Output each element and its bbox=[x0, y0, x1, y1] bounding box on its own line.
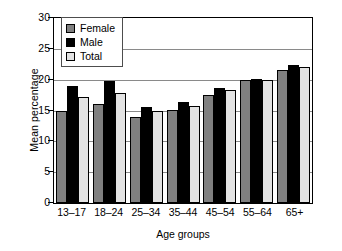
bar-total-65+ bbox=[299, 67, 310, 203]
y-tick-mark bbox=[48, 140, 53, 141]
bar-total-55-64 bbox=[262, 80, 273, 203]
legend-entry-total: Total bbox=[66, 49, 115, 63]
legend-label: Female bbox=[80, 23, 115, 34]
legend-swatch-icon bbox=[66, 52, 75, 61]
y-tick-mark bbox=[48, 17, 53, 18]
bar-male-45-54 bbox=[214, 88, 225, 203]
bar-female-45-54 bbox=[203, 95, 214, 203]
y-tick-mark bbox=[48, 171, 53, 172]
legend-entry-female: Female bbox=[66, 21, 115, 35]
x-tick-label: 45–54 bbox=[202, 206, 239, 218]
bar-total-18-24 bbox=[115, 93, 126, 203]
bar-group bbox=[238, 18, 275, 203]
x-tick-label: 65+ bbox=[276, 206, 313, 218]
x-tick-label: 13–17 bbox=[53, 206, 90, 218]
bar-male-18-24 bbox=[104, 81, 115, 203]
x-tick-label: 55–64 bbox=[239, 206, 276, 218]
bar-group bbox=[128, 18, 165, 203]
bar-male-13-17 bbox=[67, 86, 78, 203]
y-tick-label: 10 bbox=[24, 135, 50, 145]
x-tick-label: 18–24 bbox=[90, 206, 127, 218]
bar-female-35-44 bbox=[167, 110, 178, 203]
bar-male-55-64 bbox=[251, 79, 262, 203]
bar-group bbox=[165, 18, 202, 203]
y-tick-mark bbox=[48, 202, 53, 203]
y-tick-label: 0 bbox=[24, 197, 50, 207]
bar-female-18-24 bbox=[93, 104, 104, 203]
bar-group bbox=[275, 18, 312, 203]
y-tick-label: 25 bbox=[24, 43, 50, 53]
y-tick-label: 5 bbox=[24, 166, 50, 176]
bar-female-65+ bbox=[277, 70, 288, 203]
bar-total-25-34 bbox=[152, 111, 163, 204]
bar-total-13-17 bbox=[78, 97, 89, 203]
bar-group bbox=[201, 18, 238, 203]
bar-male-25-34 bbox=[141, 107, 152, 203]
bar-female-25-34 bbox=[130, 117, 141, 203]
y-tick-mark bbox=[48, 48, 53, 49]
y-tick-label: 15 bbox=[24, 105, 50, 115]
chart-legend: FemaleMaleTotal bbox=[61, 17, 123, 67]
x-axis-tick-labels: 13–1718–2425–3435–4445–5455–6465+ bbox=[53, 206, 313, 218]
legend-entry-male: Male bbox=[66, 35, 115, 49]
y-tick-mark bbox=[48, 110, 53, 111]
legend-swatch-icon bbox=[66, 24, 75, 33]
legend-swatch-icon bbox=[66, 38, 75, 47]
y-tick-label: 20 bbox=[24, 74, 50, 84]
bar-chart-figure: Mean percentage 051015202530 FemaleMaleT… bbox=[0, 0, 342, 251]
y-tick-label: 30 bbox=[24, 12, 50, 22]
y-tick-mark bbox=[48, 79, 53, 80]
x-axis-title: Age groups bbox=[53, 228, 313, 240]
legend-label: Male bbox=[80, 37, 103, 48]
bar-male-35-44 bbox=[178, 102, 189, 203]
bar-total-35-44 bbox=[189, 106, 200, 203]
y-axis-tick-labels: 051015202530 bbox=[24, 0, 50, 251]
bar-total-45-54 bbox=[225, 90, 236, 203]
bar-male-65+ bbox=[288, 65, 299, 203]
x-tick-label: 25–34 bbox=[127, 206, 164, 218]
legend-label: Total bbox=[80, 51, 102, 62]
x-tick-label: 35–44 bbox=[164, 206, 201, 218]
bar-female-13-17 bbox=[56, 111, 67, 204]
bar-female-55-64 bbox=[240, 80, 251, 203]
